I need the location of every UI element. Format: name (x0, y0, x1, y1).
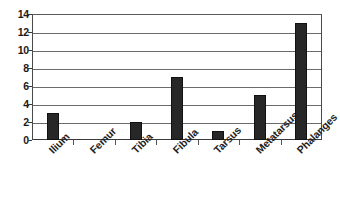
y-axis-tick-label: 6 (0, 81, 29, 92)
bar (254, 95, 266, 140)
bar (171, 77, 183, 140)
y-axis-tick-label: 2 (0, 117, 29, 128)
x-axis-labels: IliumFemurTibiaFibulaTarsusMetatarsusPha… (0, 140, 340, 206)
y-axis-tick-label: 12 (0, 27, 29, 38)
y-axis-tick-label: 4 (0, 99, 29, 110)
bar-chart: 02468101214 IliumFemurTibiaFibulaTarsusM… (0, 0, 340, 206)
y-axis-tick-label: 10 (0, 45, 29, 56)
bar (295, 23, 307, 140)
y-axis-tick-label: 14 (0, 9, 29, 20)
y-axis-tick-label: 8 (0, 63, 29, 74)
